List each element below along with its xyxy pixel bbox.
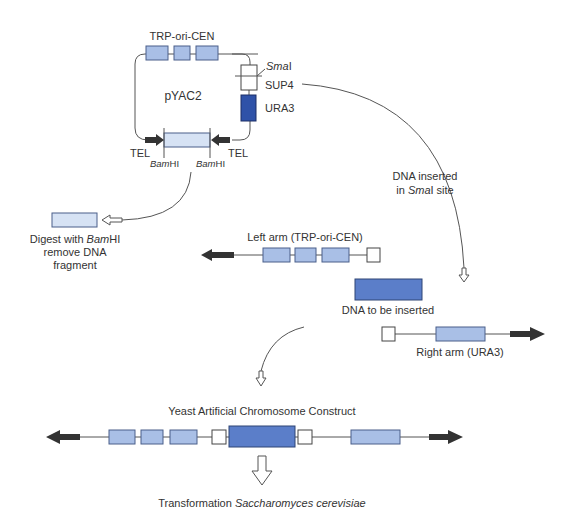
bamhi-right-label: BamHI xyxy=(196,158,225,169)
construct-title: Yeast Artificial Chromosome Construct xyxy=(168,405,355,417)
construct-right-end-block xyxy=(298,430,312,444)
smai-label: SmaI xyxy=(266,60,292,72)
ligation-step xyxy=(256,327,304,386)
ori-block xyxy=(174,46,190,60)
tel-left-label: TEL xyxy=(130,147,150,159)
plasmid-pyac2: TRP-ori-CEN SmaI SUP4 URA3 pYAC2 TEL TEL… xyxy=(130,30,294,169)
trp-block xyxy=(146,46,168,60)
transformation-arrow-icon xyxy=(252,456,272,485)
dna-insert: DNA to be inserted xyxy=(342,279,434,316)
insert-block xyxy=(355,279,422,300)
right-arm-tel-arrow-icon xyxy=(510,327,545,341)
left-arm-label: Left arm (TRP-ori-CEN) xyxy=(247,231,363,243)
construct-insert-block xyxy=(229,426,295,447)
transformation-step: Transformation Saccharomyces cerevisiae xyxy=(158,456,365,509)
left-arm-cen-block xyxy=(322,248,349,262)
digest-line1: Digest with BamHI xyxy=(30,233,120,245)
yac-construct: Yeast Artificial Chromosome Construct xyxy=(46,405,463,447)
ligation-arrow-icon xyxy=(256,371,266,386)
left-arm: Left arm (TRP-ori-CEN) xyxy=(201,231,380,262)
construct-right-tel-arrow-icon xyxy=(429,430,463,444)
bamhi-left-label: BamHI xyxy=(150,158,179,169)
construct-cen-block xyxy=(170,430,197,444)
right-arm-label: Right arm (URA3) xyxy=(416,346,503,358)
insertion-note-line1: DNA inserted xyxy=(393,170,458,182)
removed-fragment xyxy=(52,213,97,227)
smai-pointer xyxy=(257,69,265,76)
left-arm-ori-block xyxy=(295,248,316,262)
plasmid-backbone xyxy=(135,54,156,140)
ura3-block xyxy=(241,95,256,121)
right-arm-end-block xyxy=(382,327,395,341)
left-arm-trp-block xyxy=(263,248,290,262)
tel-right-arrow-icon xyxy=(211,134,230,146)
construct-ura3-block xyxy=(351,430,400,444)
ura3-label: URA3 xyxy=(265,102,294,114)
sup4-label: SUP4 xyxy=(265,79,294,91)
construct-ori-block xyxy=(141,430,163,444)
yac-cloning-diagram: TRP-ori-CEN SmaI SUP4 URA3 pYAC2 TEL TEL… xyxy=(0,0,569,526)
construct-trp-block xyxy=(109,430,135,444)
tel-left-arrow-icon xyxy=(145,134,164,146)
left-arm-end-block xyxy=(367,248,380,262)
sup4-block xyxy=(241,65,257,90)
right-arm-ura3-block xyxy=(436,327,485,341)
digest-arrow-icon xyxy=(102,215,122,225)
construct-left-end-block xyxy=(212,430,226,444)
cen-block xyxy=(196,46,218,60)
insert-label: DNA to be inserted xyxy=(342,304,434,316)
tel-right-label: TEL xyxy=(228,147,248,159)
plasmid-name: pYAC2 xyxy=(164,89,201,103)
digest-step: Digest with BamHI remove DNA fragment xyxy=(30,172,191,271)
ligation-curve xyxy=(261,327,304,371)
digest-curve xyxy=(122,172,191,220)
digest-line3: fragment xyxy=(53,259,96,271)
left-arm-tel-arrow-icon xyxy=(201,249,234,261)
insertion-arrow-icon xyxy=(459,268,469,282)
transformation-label: Transformation Saccharomyces cerevisiae xyxy=(158,497,365,509)
stuffer-fragment xyxy=(164,133,210,147)
insertion-note-line2: in SmaI site xyxy=(396,184,453,196)
digest-line2: remove DNA xyxy=(44,246,108,258)
plasmid-backbone-right xyxy=(232,54,250,65)
trp-ori-cen-label: TRP-ori-CEN xyxy=(150,30,215,42)
construct-left-tel-arrow-icon xyxy=(46,430,80,444)
plasmid-backbone-right-lower xyxy=(232,121,250,140)
right-arm: Right arm (URA3) xyxy=(382,327,545,358)
